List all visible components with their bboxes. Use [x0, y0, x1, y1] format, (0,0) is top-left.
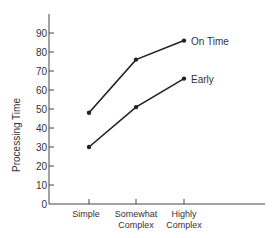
y-tick-label: 30 — [36, 142, 48, 153]
x-tick-label: Highly — [171, 209, 197, 219]
data-point — [134, 105, 138, 109]
y-tick-label: 50 — [36, 104, 48, 115]
data-point — [87, 111, 91, 115]
y-tick-label: 0 — [41, 199, 47, 210]
y-tick-label: 40 — [36, 123, 48, 134]
y-tick-label: 70 — [36, 66, 48, 77]
data-point — [87, 145, 91, 149]
series-line — [89, 79, 184, 147]
data-point — [182, 38, 186, 42]
y-tick-label: 90 — [36, 28, 48, 39]
series-label: On Time — [191, 36, 229, 47]
y-tick-label: 80 — [36, 47, 48, 58]
series-early: Early — [87, 74, 214, 150]
y-axis: 0102030405060708090 — [36, 14, 54, 210]
x-tick-label: Somewhat — [115, 209, 158, 219]
y-axis-label: Processing Time — [11, 98, 22, 172]
y-tick-label: 60 — [36, 85, 48, 96]
x-tick-label: Complex — [118, 220, 154, 230]
line-chart: 0102030405060708090 SimpleSomewhatComple… — [0, 0, 279, 238]
x-tick-label: Simple — [72, 209, 100, 219]
x-axis: SimpleSomewhatComplexHighlyComplex — [49, 199, 265, 230]
data-point — [134, 57, 138, 61]
y-tick-label: 20 — [36, 161, 48, 172]
y-tick-label: 10 — [36, 180, 48, 191]
x-tick-label: Complex — [166, 220, 202, 230]
series-group: On TimeEarly — [87, 36, 229, 150]
data-point — [182, 76, 186, 80]
series-line — [89, 41, 184, 113]
series-label: Early — [191, 74, 214, 85]
